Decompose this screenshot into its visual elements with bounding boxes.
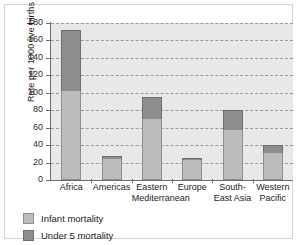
x-axis-tick-mark [253, 179, 254, 183]
x-axis-tick-mark [132, 179, 133, 183]
y-axis-tick-label: 140 [3, 53, 43, 62]
chart-frame: Rate per 1000 live births 18016014012010… [4, 4, 293, 239]
bar-south-east-asia [223, 110, 243, 180]
x-axis-tick-label: WesternPacific [253, 182, 293, 203]
gridline [51, 40, 293, 41]
bar-europe [182, 158, 202, 180]
y-axis-tick-label: 0 [3, 175, 43, 184]
y-axis-tick-mark [46, 145, 50, 146]
bar-americas [102, 156, 122, 180]
x-axis-tick-label: South-East Asia [212, 182, 252, 203]
x-axis-tick-mark [172, 179, 173, 183]
y-axis-tick-mark [46, 180, 50, 181]
x-axis-tick-label: Americas [91, 182, 131, 193]
y-axis-tick-mark [46, 163, 50, 164]
legend-swatch-infant-icon [23, 213, 34, 224]
plot-area [51, 23, 293, 180]
gridline [51, 23, 293, 24]
y-axis-tick-mark [46, 128, 50, 129]
y-axis-tick-mark [46, 110, 50, 111]
bar-segment-under5 [263, 145, 283, 153]
legend: Infant mortality Under 5 mortality [23, 211, 113, 245]
gridline [51, 58, 293, 59]
bar-eastern-mediterranean [142, 97, 162, 180]
gridline [51, 110, 293, 111]
bar-western-pacific [263, 145, 283, 180]
x-axis-tick-label: EasternMediterranean [132, 182, 172, 203]
bar-segment-infant [223, 130, 243, 180]
legend-item-under5: Under 5 mortality [23, 228, 113, 242]
x-axis-tick-label: Europe [172, 182, 212, 193]
y-axis-tick-mark [46, 40, 50, 41]
gridline [51, 145, 293, 146]
y-axis-tick-label: 180 [3, 18, 43, 27]
bar-segment-under5 [142, 97, 162, 119]
y-axis-tick-label: 120 [3, 70, 43, 79]
legend-item-infant: Infant mortality [23, 211, 113, 225]
bar-segment-infant [263, 153, 283, 180]
y-axis-tick-label: 160 [3, 35, 43, 44]
y-axis-tick-label: 20 [3, 158, 43, 167]
y-axis-tick-label: 80 [3, 105, 43, 114]
bar-segment-infant [102, 159, 122, 180]
y-axis-tick-labels: 180160140120100806040200 [3, 5, 43, 238]
gridline [51, 128, 293, 129]
x-axis-tick-label: Africa [51, 182, 91, 193]
y-axis-tick-mark [46, 23, 50, 24]
bar-segment-infant [61, 91, 81, 180]
bar-segment-under5 [61, 30, 81, 91]
x-axis-tick-mark [91, 179, 92, 183]
y-axis-tick-mark [46, 75, 50, 76]
y-axis-tick-mark [46, 58, 50, 59]
bar-segment-infant [182, 160, 202, 180]
legend-label-infant: Infant mortality [41, 213, 103, 224]
y-axis-tick-mark [46, 93, 50, 94]
bar-segment-infant [142, 119, 162, 180]
legend-label-under5: Under 5 mortality [41, 230, 113, 241]
y-axis-tick-label: 40 [3, 140, 43, 149]
bar-segment-under5 [223, 110, 243, 130]
gridline [51, 75, 293, 76]
gridline [51, 93, 293, 94]
x-axis-tick-labels: AfricaAmericasEasternMediterraneanEurope… [51, 182, 293, 212]
y-axis-tick-label: 60 [3, 123, 43, 132]
y-axis-tick-label: 100 [3, 88, 43, 97]
bar-africa [61, 30, 81, 180]
legend-swatch-under5-icon [23, 230, 34, 241]
x-axis-tick-mark [212, 179, 213, 183]
gridline [51, 163, 293, 164]
